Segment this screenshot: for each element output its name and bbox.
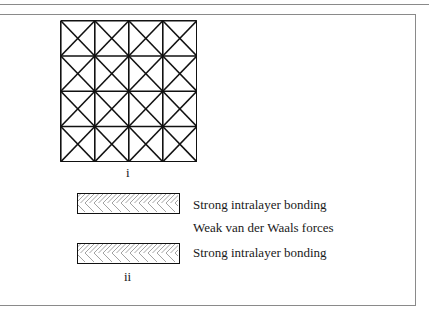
layer-grid-diagram [60,20,197,162]
layer-top-caption: Strong intralayer bonding [193,198,327,212]
layer-bottom-caption: Strong intralayer bonding [193,246,327,260]
part-ii-label: ii [124,270,131,284]
top-rule [0,4,429,5]
part-i-label: i [126,166,130,180]
intralayer-bonding-layer-bottom [77,243,180,264]
van-der-waals-caption: Weak van der Waals forces [193,221,334,235]
intralayer-bonding-layer-top [77,193,180,214]
